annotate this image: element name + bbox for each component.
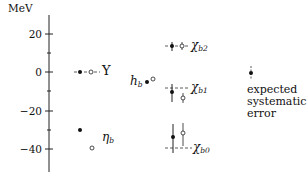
label-upsilon: Υ [102,65,111,76]
systematic-error-legend: expected systematic error [247,84,307,120]
chi-b0-points [165,123,192,153]
label-eta-b: ηb [102,132,114,146]
h-b-points [145,77,155,84]
label-chi-b0: χb0 [193,142,210,156]
chi-b1-points [165,84,190,103]
chi-b2-points [165,42,190,51]
label-h-b: hb [130,76,143,90]
label-chi-b2: χb2 [191,40,208,54]
y-tick-label: 20 [12,29,42,39]
y-tick-label: 0 [12,67,42,77]
label-chi-b1: χb1 [191,82,208,96]
y-tick-label: −20 [12,106,42,116]
legend-line: error [247,108,307,120]
y-tick-label: −40 [12,144,42,154]
upsilon-points [74,70,100,74]
y-axis-unit: MeV [8,2,33,14]
eta-b-points [78,128,94,150]
systematic-error-marker [249,66,253,79]
